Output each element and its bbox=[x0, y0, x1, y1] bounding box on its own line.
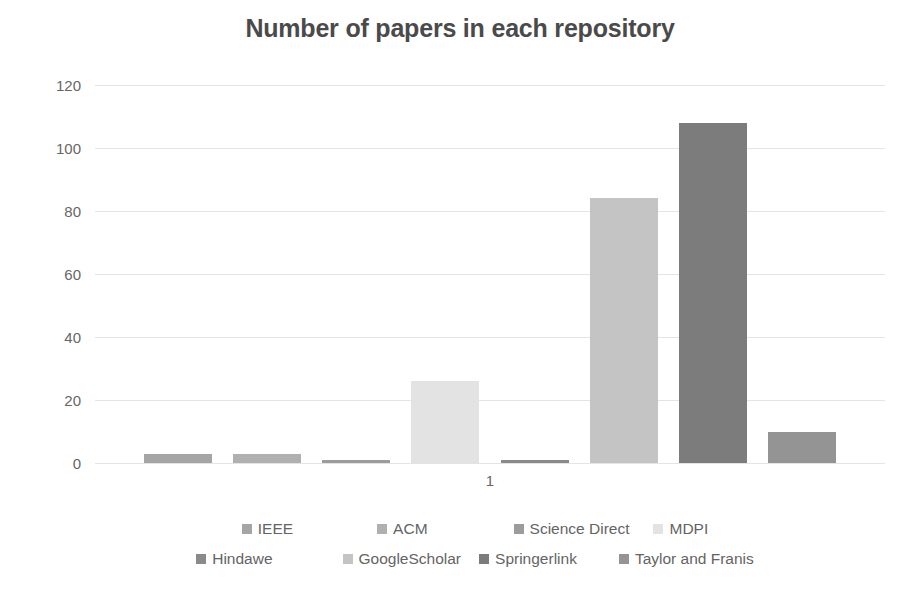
legend-item-springerlink[interactable]: Springerlink bbox=[479, 550, 577, 568]
y-axis-tick-label: 0 bbox=[73, 455, 81, 472]
y-axis-tick-label: 100 bbox=[56, 140, 81, 157]
legend-swatch-icon bbox=[343, 554, 353, 564]
legend-item-taylor-and-franis[interactable]: Taylor and Franis bbox=[619, 550, 754, 568]
bar-acm[interactable] bbox=[233, 454, 301, 463]
legend-label: IEEE bbox=[258, 520, 293, 538]
bar-googlescholar[interactable] bbox=[590, 198, 658, 463]
legend-label: ACM bbox=[393, 520, 427, 538]
legend-item-acm[interactable]: ACM bbox=[377, 520, 427, 538]
legend-swatch-icon bbox=[242, 524, 252, 534]
chart-legend: IEEEACMScience DirectMDPIHindaweGoogleSc… bbox=[95, 514, 855, 574]
y-axis-tick-label: 120 bbox=[56, 77, 81, 94]
plot-area: 020406080100120 bbox=[95, 85, 885, 463]
legend-swatch-icon bbox=[653, 524, 663, 534]
bar-ieee[interactable] bbox=[144, 454, 212, 463]
x-axis-labels: 1 bbox=[95, 472, 885, 490]
legend-swatch-icon bbox=[619, 554, 629, 564]
legend-label: Springerlink bbox=[495, 550, 577, 568]
x-axis-tick-label: 1 bbox=[486, 472, 494, 489]
y-axis-tick-label: 40 bbox=[64, 329, 81, 346]
legend-label: Taylor and Franis bbox=[635, 550, 754, 568]
y-axis-tick-label: 20 bbox=[64, 392, 81, 409]
bar-science-direct[interactable] bbox=[322, 460, 390, 463]
legend-item-ieee[interactable]: IEEE bbox=[242, 520, 293, 538]
legend-row: IEEEACMScience DirectMDPI bbox=[95, 514, 855, 544]
legend-label: Science Direct bbox=[530, 520, 630, 538]
legend-swatch-icon bbox=[196, 554, 206, 564]
bar-hindawe[interactable] bbox=[501, 460, 569, 463]
gridline bbox=[95, 463, 885, 464]
legend-swatch-icon bbox=[479, 554, 489, 564]
bar-taylor-and-franis[interactable] bbox=[768, 432, 836, 464]
legend-swatch-icon bbox=[377, 524, 387, 534]
chart-title: Number of papers in each repository bbox=[0, 14, 920, 43]
legend-row: HindaweGoogleScholarSpringerlinkTaylor a… bbox=[95, 544, 855, 574]
bars-container bbox=[95, 85, 885, 463]
legend-item-mdpi[interactable]: MDPI bbox=[653, 520, 708, 538]
legend-item-science-direct[interactable]: Science Direct bbox=[514, 520, 630, 538]
legend-item-googlescholar[interactable]: GoogleScholar bbox=[343, 550, 462, 568]
y-axis-tick-label: 60 bbox=[64, 266, 81, 283]
legend-label: Hindawe bbox=[212, 550, 272, 568]
legend-label: MDPI bbox=[669, 520, 708, 538]
legend-label: GoogleScholar bbox=[359, 550, 462, 568]
legend-item-hindawe[interactable]: Hindawe bbox=[196, 550, 272, 568]
legend-swatch-icon bbox=[514, 524, 524, 534]
bar-mdpi[interactable] bbox=[411, 381, 479, 463]
bar-springerlink[interactable] bbox=[679, 123, 747, 463]
bar-chart: Number of papers in each repository 0204… bbox=[0, 0, 920, 613]
y-axis-tick-label: 80 bbox=[64, 203, 81, 220]
